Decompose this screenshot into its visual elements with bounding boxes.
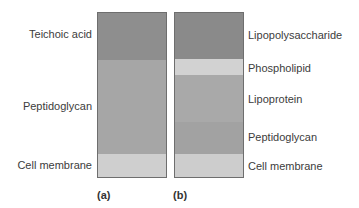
label-phospholipid: Phospholipid	[248, 62, 311, 75]
layer-peptidoglycan-b	[175, 122, 243, 154]
label-peptidoglycan-b: Peptidoglycan	[248, 131, 317, 144]
panel-a-cell-wall	[97, 12, 167, 178]
label-peptidoglycan-a: Peptidoglycan	[23, 100, 92, 113]
label-lipoprotein: Lipoprotein	[248, 93, 302, 106]
panel-b-cell-wall	[174, 12, 244, 178]
caption-a: (a)	[97, 189, 110, 201]
label-cell-membrane-a: Cell membrane	[17, 159, 92, 172]
layer-lipoprotein	[175, 75, 243, 122]
layer-peptidoglycan-a	[98, 60, 166, 154]
caption-b: (b)	[173, 189, 187, 201]
layer-cell-membrane-a	[98, 154, 166, 178]
layer-cell-membrane-b	[175, 154, 243, 178]
layer-phospholipid	[175, 59, 243, 75]
label-teichoic-acid: Teichoic acid	[29, 28, 92, 41]
layer-lipopolysaccharide	[175, 13, 243, 59]
label-lipopolysaccharide: Lipopolysaccharide	[248, 29, 342, 42]
label-cell-membrane-b: Cell membrane	[248, 160, 323, 173]
layer-teichoic-acid	[98, 13, 166, 60]
